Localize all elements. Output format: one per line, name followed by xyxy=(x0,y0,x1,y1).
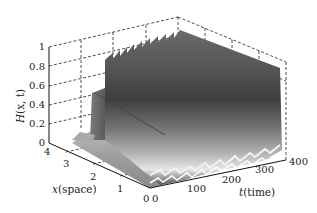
x-tick-3: 3 xyxy=(63,158,69,169)
x-tick-0: 0 xyxy=(143,193,149,204)
t-tick-0: 0 xyxy=(152,193,158,204)
surface-plot: 1 0.8 0.6 0.4 0.2 0 H(x, t) 4 3 2 1 0 x(… xyxy=(0,0,317,213)
z-tick-0.8: 0.8 xyxy=(29,61,45,72)
z-tick-labels: 1 0.8 0.6 0.4 0.2 0 xyxy=(29,41,45,148)
t-tick-300: 300 xyxy=(255,164,274,175)
t-tick-100: 100 xyxy=(187,183,206,194)
t-tick-200: 200 xyxy=(222,174,241,185)
z-tick-0.6: 0.6 xyxy=(29,80,45,91)
x-axis-label: x(space) xyxy=(52,183,97,195)
x-tick-2: 2 xyxy=(90,171,96,182)
z-tick-0.4: 0.4 xyxy=(29,99,45,110)
t-axis-label: t(time) xyxy=(239,186,275,198)
z-tick-1: 1 xyxy=(39,41,45,52)
x-tick-1: 1 xyxy=(117,183,123,194)
x-tick-4: 4 xyxy=(44,146,50,157)
t-tick-400: 400 xyxy=(289,156,308,167)
z-tick-0.2: 0.2 xyxy=(29,118,45,129)
z-axis-label: H(x, t) xyxy=(14,89,26,124)
